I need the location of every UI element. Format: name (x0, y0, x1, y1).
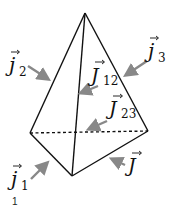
footnote-number: 1 (12, 196, 18, 207)
tetrahedron-edges (30, 13, 148, 176)
edge-left-bottom (30, 133, 72, 176)
svg-text:J: J (124, 154, 137, 176)
arrow-j3 (126, 61, 147, 75)
arrow-J12 (81, 86, 98, 93)
label-j1: j 1 (7, 164, 29, 193)
svg-text:3: 3 (158, 51, 166, 65)
svg-text:J: J (87, 64, 100, 86)
label-j2: j 2 (5, 50, 27, 79)
svg-text:j: j (144, 39, 154, 63)
arrow-J (112, 159, 125, 165)
svg-text:J: J (105, 97, 118, 119)
svg-text:2: 2 (19, 65, 27, 79)
edge-bottom-right (72, 131, 148, 176)
svg-text:j: j (7, 167, 17, 191)
svg-text:j: j (5, 53, 15, 77)
tetrahedron-diagram: j 2 j 3 J 12 J 23 j 1 J (0, 0, 173, 216)
arrow-j2 (28, 66, 48, 79)
svg-text:12: 12 (103, 74, 118, 88)
svg-text:1: 1 (21, 179, 29, 193)
svg-text:23: 23 (121, 107, 136, 121)
label-J: J (124, 151, 142, 176)
arrow-j1 (31, 163, 47, 179)
edge-left-right-hidden (30, 131, 148, 133)
label-J23: J 23 (105, 94, 136, 121)
arrow-J23 (89, 121, 107, 129)
label-J12: J 12 (87, 60, 118, 88)
label-j3: j 3 (144, 36, 166, 65)
